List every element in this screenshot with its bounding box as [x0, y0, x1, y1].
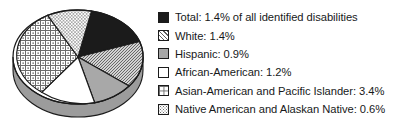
legend-item-label: African-American: 1.2% — [175, 66, 291, 78]
solid-black-swatch — [158, 12, 169, 23]
solid-gray-swatch — [158, 48, 169, 59]
diagonal-hatch-swatch — [158, 30, 169, 41]
legend-item-african-american: African-American: 1.2% — [158, 63, 403, 81]
pie-chart-figure: Total: 1.4% of all identified disabiliti… — [0, 0, 403, 124]
legend-item-label: Hispanic: 0.9% — [175, 48, 249, 60]
fine-dots-swatch — [158, 104, 169, 115]
legend-item-hispanic: Hispanic: 0.9% — [158, 45, 403, 63]
legend-item-asian-american-pacific-islander: Asian-American and Pacific Islander: 3.4… — [158, 82, 403, 100]
legend-item-label: Native American and Alaskan Native: 0.6% — [175, 103, 385, 115]
pie-chart-graphic — [0, 0, 156, 124]
legend-item-label: Total: 1.4% of all identified disabiliti… — [175, 11, 358, 23]
legend-item-native-american-alaskan-native: Native American and Alaskan Native: 0.6% — [158, 100, 403, 118]
grid-dots-swatch — [158, 85, 169, 96]
pie-chart-svg — [0, 0, 156, 124]
legend-item-total: Total: 1.4% of all identified disabiliti… — [158, 8, 403, 26]
legend-item-label: White: 1.4% — [175, 30, 235, 42]
legend-item-label: Asian-American and Pacific Islander: 3.4… — [175, 85, 384, 97]
chart-legend: Total: 1.4% of all identified disabiliti… — [158, 8, 403, 120]
solid-white-swatch — [158, 67, 169, 78]
legend-item-white: White: 1.4% — [158, 26, 403, 44]
